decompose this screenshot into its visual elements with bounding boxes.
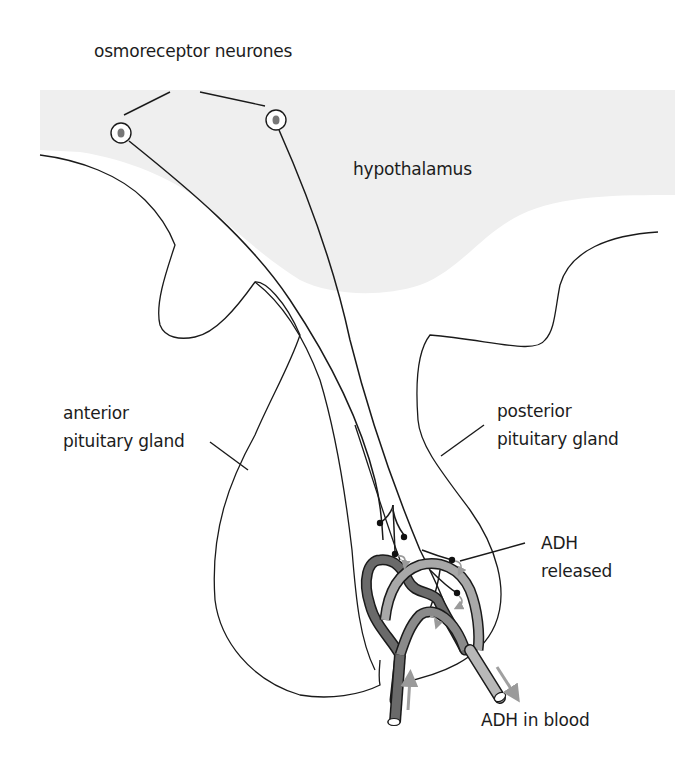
osmoreceptor-neurone-right bbox=[266, 110, 286, 130]
osmoreceptor-neurone-left bbox=[111, 123, 131, 143]
adh-released-leader bbox=[460, 543, 525, 561]
label-osmoreceptor-neurones: osmoreceptor neurones bbox=[94, 38, 292, 64]
label-posterior-line2: pituitary gland bbox=[497, 426, 619, 452]
diagram-canvas: osmoreceptor neurones hypothalamus anter… bbox=[0, 0, 681, 781]
pituitary-diagram bbox=[0, 0, 681, 781]
posterior-label-leader bbox=[441, 425, 484, 456]
label-anterior-line1: anterior bbox=[63, 400, 129, 426]
anterior-label-leader bbox=[210, 442, 248, 470]
label-anterior-line2: pituitary gland bbox=[63, 428, 185, 454]
label-posterior-line1: posterior bbox=[497, 398, 571, 424]
label-adh-in-blood: ADH in blood bbox=[481, 707, 590, 733]
label-hypothalamus: hypothalamus bbox=[353, 156, 472, 182]
label-adh-released-line2: released bbox=[541, 558, 612, 584]
label-adh-released-line1: ADH bbox=[541, 530, 578, 556]
blood-in-arrow bbox=[408, 678, 410, 710]
